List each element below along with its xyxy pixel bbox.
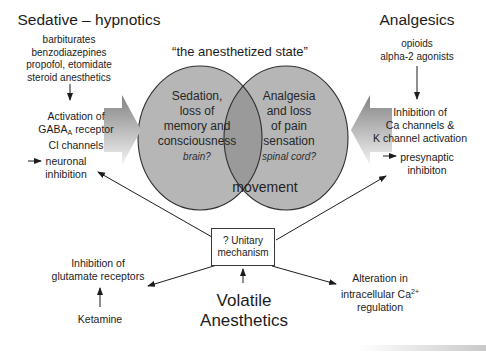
brain-note: brain? [158,149,237,164]
bottom-right-gradient-bar [358,345,486,351]
analgesics-title: Analgesics [380,11,455,29]
ketamine-label: Ketamine [78,313,122,326]
gaba-mechanism-label: Activation of GABAA receptor Cl channels [38,110,113,152]
movement-label: movement [232,179,297,195]
drug-propofol-etomidate: propofol, etomidate [26,59,112,72]
sedative-hypnotics-title: Sedative – hypnotics [17,11,160,29]
drug-barbiturates: barbiturates [26,34,112,47]
drug-steroid-anesthetics: steroid anesthetics [26,72,112,85]
calcium-regulation-label: Alteration in intracellular Ca2+ regulat… [341,272,419,314]
ca-k-channel-mechanism-label: Inhibition of Ca channels & K channel ac… [373,106,467,145]
sedation-circle-label: Sedation, loss of memory and consciousne… [158,89,237,164]
arrow-box-to-lower-left-icon [148,265,217,286]
figure-canvas: Sedative – hypnotics barbiturates benzod… [0,0,486,352]
drug-alpha2-agonists: alpha-2 agonists [380,51,453,64]
neuronal-inhibition-label: neuronal inhibition [45,155,86,181]
analgesic-drug-list: opioids alpha-2 agonists [380,38,453,63]
unitary-mechanism-box: ? Unitary mechanism [211,228,275,266]
analgesia-circle-label: Analgesia and loss of pain sensation spi… [262,89,316,164]
gaba-receptor-line: GABAA receptor [38,123,113,139]
volatile-anesthetics-title: Volatile Anesthetics [200,291,288,330]
anesthetized-state-title: “the anesthetized state” [172,44,308,59]
glutamate-receptors-label: Inhibition of glutamate receptors [52,257,145,283]
drug-benzodiazepines: benzodiazepines [26,47,112,60]
spinal-cord-note: spinal cord? [262,149,316,164]
sedative-drug-list: barbiturates benzodiazepines propofol, e… [26,34,112,84]
presynaptic-inhibition-label: presynaptic inhibiton [400,151,454,177]
intracellular-ca-line: intracellular Ca2+ [341,285,419,301]
drug-opioids: opioids [380,38,453,51]
arrow-box-to-calcium-icon [272,266,336,284]
